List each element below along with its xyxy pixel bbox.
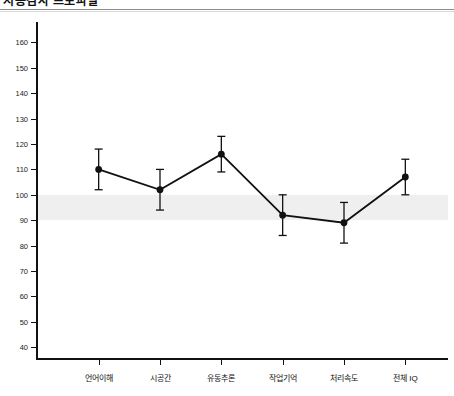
- data-point-marker: [341, 219, 348, 226]
- data-point-marker: [279, 212, 286, 219]
- y-tick-label: 100: [15, 190, 28, 199]
- x-axis-category-label: 전체 IQ: [393, 372, 418, 383]
- y-tick-label: 60: [20, 292, 28, 301]
- y-tick-label: 150: [15, 63, 28, 72]
- x-tick: [405, 360, 406, 365]
- x-axis-category-label: 유동추론: [207, 372, 235, 383]
- x-axis-category-label: 처리속도: [330, 372, 358, 383]
- x-tick: [99, 360, 100, 365]
- title-divider: [0, 9, 454, 10]
- y-tick-label: 160: [15, 38, 28, 47]
- y-tick-label: 50: [20, 317, 28, 326]
- data-point-marker: [95, 166, 102, 173]
- y-tick-label: 140: [15, 89, 28, 98]
- data-point-marker: [157, 186, 164, 193]
- x-tick: [221, 360, 222, 365]
- y-tick-label: 130: [15, 114, 28, 123]
- series-line: [99, 154, 406, 223]
- x-tick: [283, 360, 284, 365]
- x-tick: [160, 360, 161, 365]
- data-series: [36, 22, 448, 360]
- x-axis-category-label: 언어이해: [85, 372, 113, 383]
- y-tick-label: 110: [16, 165, 28, 174]
- chart-page: 지능검사 프로파일 405060708090100110120130140150…: [0, 0, 454, 396]
- page-title: 지능검사 프로파일: [3, 0, 99, 8]
- title-divider-secondary: [0, 11, 454, 12]
- plot-area: 405060708090100110120130140150160 언어이해시공…: [36, 22, 448, 360]
- y-tick-label: 120: [15, 139, 28, 148]
- y-tick-label: 70: [20, 267, 28, 276]
- x-tick: [344, 360, 345, 365]
- x-axis-category-label: 작업기억: [269, 372, 297, 383]
- y-tick-label: 90: [20, 216, 28, 225]
- y-tick-label: 40: [20, 343, 28, 352]
- data-point-marker: [402, 174, 409, 181]
- chart-title-clipped: 지능검사 프로파일: [0, 0, 454, 9]
- data-point-marker: [218, 151, 225, 158]
- y-tick-label: 80: [20, 241, 28, 250]
- x-axis-category-label: 시공간: [150, 372, 171, 383]
